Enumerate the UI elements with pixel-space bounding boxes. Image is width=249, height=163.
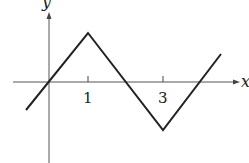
x-axis-arrow-icon	[233, 80, 240, 85]
graph-canvas	[0, 0, 249, 163]
tick-label-1: 1	[83, 91, 93, 106]
x-axis-label: x	[241, 74, 249, 90]
graph-figure: y x 1 3	[0, 0, 249, 163]
tick-label-3: 3	[158, 91, 168, 106]
y-axis-arrow-icon	[47, 12, 52, 19]
y-axis-label: y	[42, 0, 51, 10]
